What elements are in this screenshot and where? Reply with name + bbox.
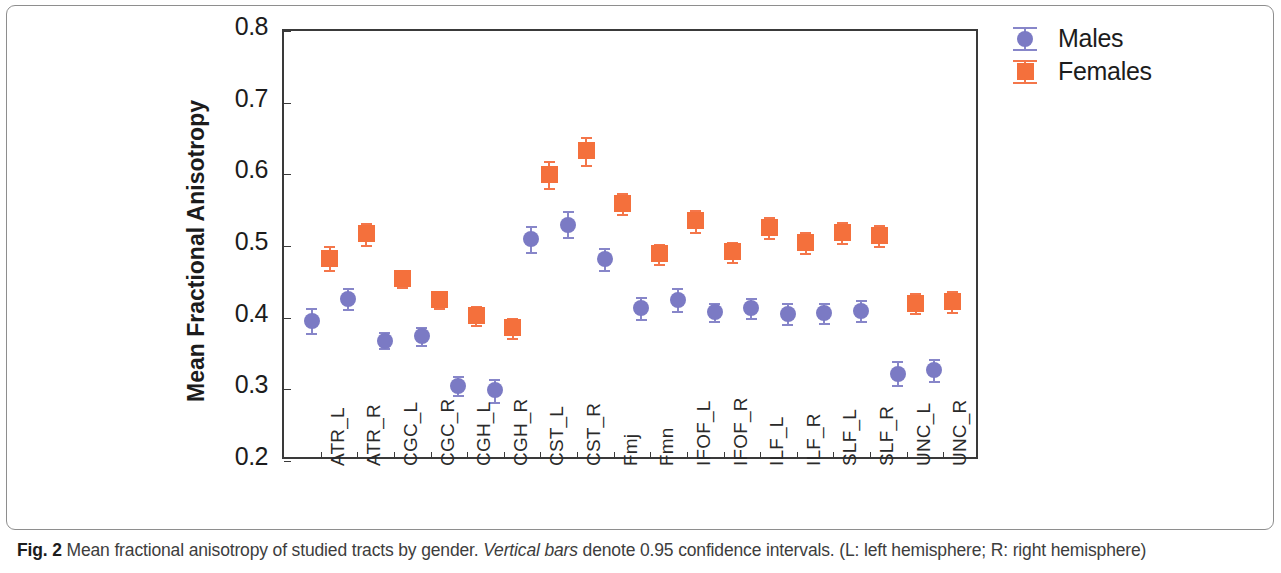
x-axis-tick-label-cgc_l: CGC_L bbox=[400, 402, 422, 466]
error-bar-cap-lower bbox=[764, 238, 775, 240]
error-bar-cap-upper bbox=[563, 211, 574, 213]
caption-text-part-1: Mean fractional anisotropy of studied tr… bbox=[62, 540, 483, 560]
x-axis-tick-label-cst_r: CST_R bbox=[583, 403, 605, 466]
error-bar-cap-upper bbox=[324, 246, 335, 248]
x-axis-tick bbox=[797, 452, 798, 459]
error-bar-cap-lower bbox=[471, 325, 482, 327]
y-axis-tick-label: 0.3 bbox=[198, 370, 268, 399]
legend-item-males[interactable]: Males bbox=[1000, 22, 1230, 55]
marker-square-icon bbox=[614, 195, 631, 212]
marker-circle-icon bbox=[487, 382, 503, 398]
y-axis-tick-label: 0.2 bbox=[198, 442, 268, 471]
x-axis-tick-label-unc_l: UNC_L bbox=[913, 403, 935, 466]
error-bar-cap-upper bbox=[581, 137, 592, 139]
error-bar-cap-lower bbox=[581, 165, 592, 167]
caption-figure-number: Fig. 2 bbox=[17, 540, 62, 560]
error-bar-cap-lower bbox=[947, 312, 958, 314]
error-bar-cap-lower bbox=[544, 188, 555, 190]
marker-circle-icon bbox=[450, 378, 466, 394]
marker-square-icon bbox=[944, 293, 961, 310]
marker-square-icon bbox=[651, 245, 668, 262]
x-axis-tick-label-cgh_l: CGH_L bbox=[473, 402, 495, 466]
error-bar-cap-lower bbox=[563, 237, 574, 239]
marker-circle-icon bbox=[816, 305, 832, 321]
marker-square-icon bbox=[761, 219, 778, 236]
marker-square-icon bbox=[468, 307, 485, 324]
error-bar-cap-upper bbox=[856, 300, 867, 302]
error-bar-cap-upper bbox=[306, 308, 317, 310]
marker-circle-icon bbox=[780, 306, 796, 322]
y-axis-tick-label: 0.7 bbox=[198, 84, 268, 113]
x-axis-tick-label-cgc_r: CGC_R bbox=[437, 398, 459, 466]
marker-square-icon bbox=[724, 243, 741, 260]
x-axis-tick-label-atr_l: ATR_L bbox=[327, 407, 349, 466]
marker-circle-icon bbox=[853, 303, 869, 319]
marker-square-icon bbox=[358, 225, 375, 242]
error-bar-cap-lower bbox=[910, 313, 921, 315]
x-axis-tick-label-slf_l: SLF_L bbox=[839, 409, 861, 466]
x-axis-tick-label-unc_r: UNC_R bbox=[949, 400, 971, 466]
legend-marker-females-square-icon bbox=[1000, 57, 1050, 87]
error-bar-cap-lower bbox=[324, 270, 335, 272]
marker-square-icon bbox=[834, 224, 851, 241]
error-bar-cap-lower bbox=[746, 318, 757, 320]
error-bar-cap-lower bbox=[672, 311, 683, 313]
error-bar-cap-lower bbox=[361, 245, 372, 247]
y-axis-tick bbox=[284, 31, 291, 32]
error-bar-cap-upper bbox=[526, 226, 537, 228]
error-bar-cap-lower bbox=[929, 381, 940, 383]
marker-circle-icon bbox=[523, 231, 539, 247]
error-bar-cap-lower bbox=[690, 232, 701, 234]
error-bar-cap-lower bbox=[453, 395, 464, 397]
error-bar-cap-lower bbox=[819, 323, 830, 325]
error-bar-cap-lower bbox=[709, 321, 720, 323]
y-axis-tick-label: 0.6 bbox=[198, 155, 268, 184]
error-bar-cap-lower bbox=[379, 348, 390, 350]
figure-caption: Fig. 2 Mean fractional anisotropy of stu… bbox=[17, 540, 1267, 561]
x-axis-tick-label-ifof_l: IFOF_L bbox=[693, 400, 715, 466]
x-axis-tick-label-fmj: Fmj bbox=[620, 434, 642, 466]
x-axis-tick bbox=[321, 452, 322, 459]
x-axis-tick bbox=[357, 452, 358, 459]
error-bar-cap-upper bbox=[544, 161, 555, 163]
marker-circle-icon bbox=[890, 366, 906, 382]
x-axis-tick bbox=[577, 452, 578, 459]
error-bar-cap-lower bbox=[727, 262, 738, 264]
x-axis-tick bbox=[943, 452, 944, 459]
y-axis-tick-label: 0.5 bbox=[198, 227, 268, 256]
error-bar-cap-upper bbox=[489, 379, 500, 381]
marker-square-icon bbox=[578, 142, 595, 159]
y-axis-tick bbox=[284, 103, 291, 104]
marker-square-icon bbox=[431, 291, 448, 308]
error-bar-cap-upper bbox=[343, 288, 354, 290]
y-axis-tick bbox=[284, 461, 291, 462]
marker-square-icon bbox=[321, 250, 338, 267]
error-bar-cap-lower bbox=[654, 264, 665, 266]
caption-text-part-2: denote 0.95 confidence intervals. (L: le… bbox=[578, 540, 1146, 560]
marker-square-icon bbox=[871, 227, 888, 244]
x-axis-tick-label-cst_l: CST_L bbox=[546, 406, 568, 466]
x-axis-tick bbox=[687, 452, 688, 459]
x-axis-tick bbox=[504, 452, 505, 459]
marker-circle-icon bbox=[926, 362, 942, 378]
x-axis-tick bbox=[870, 452, 871, 459]
x-axis-tick-label-cgh_r: CGH_R bbox=[510, 398, 532, 466]
error-bar-cap-upper bbox=[929, 359, 940, 361]
error-bar-cap-lower bbox=[416, 345, 427, 347]
error-bar-cap-lower bbox=[343, 309, 354, 311]
y-axis-tick bbox=[284, 174, 291, 175]
error-bar-cap-lower bbox=[856, 321, 867, 323]
y-axis-tick-label: 0.8 bbox=[198, 12, 268, 41]
error-bar-cap-upper bbox=[782, 303, 793, 305]
marker-square-icon bbox=[797, 234, 814, 251]
marker-circle-icon bbox=[377, 333, 393, 349]
plot-area bbox=[282, 29, 978, 459]
marker-circle-icon bbox=[670, 292, 686, 308]
x-axis-tick bbox=[760, 452, 761, 459]
error-bar-cap-lower bbox=[599, 270, 610, 272]
error-bar-cap-upper bbox=[599, 248, 610, 250]
legend-item-females[interactable]: Females bbox=[1000, 55, 1230, 88]
marker-square-icon bbox=[394, 270, 411, 287]
marker-square-icon bbox=[687, 212, 704, 229]
y-axis-tick bbox=[284, 318, 291, 319]
